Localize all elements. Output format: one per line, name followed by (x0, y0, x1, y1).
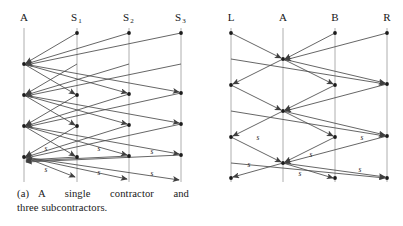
msg-B-to-A-r1 (285, 33, 335, 59)
axis-label-S1-subscript: 1 (78, 17, 82, 25)
node-B-r1 (333, 83, 337, 87)
msg-A-to-R-r1 (283, 59, 385, 83)
axis-label-A-b: A (279, 11, 287, 23)
node-S3-r2 (179, 122, 183, 126)
s-label-a-4: s (45, 165, 48, 174)
caption-a-tag: (a) (17, 188, 29, 199)
axis-label-S2: S (123, 11, 129, 23)
axis-labels-b: L A B R (228, 11, 392, 23)
axis-label-S1: S (71, 11, 77, 23)
node-A-r1 (22, 62, 26, 66)
axis-label-S2-subscript: 2 (130, 17, 134, 25)
node-R-r1 (385, 82, 389, 86)
node-B-r2 (333, 135, 337, 139)
s-label-b-2: s (361, 133, 364, 142)
s-label-b-4: s (248, 160, 251, 169)
axis-label-S3-subscript: 3 (182, 17, 186, 25)
axis-label-S3: S (175, 11, 181, 23)
s-label-b-1: s (257, 133, 260, 142)
node-R-r3 (385, 176, 389, 180)
s-label-a-6: s (151, 169, 154, 178)
caption-a-text1: A single contractor and (38, 188, 189, 199)
node-L-r2 (229, 135, 233, 139)
messages-group-a (24, 33, 181, 180)
node-S3-r0 (179, 31, 183, 35)
node-S1-r1 (75, 93, 79, 97)
msg-L-to-A-r1 (231, 33, 281, 58)
node-S1-r2 (75, 124, 79, 128)
node-S1-r3 (75, 155, 79, 159)
node-A-r2 (281, 109, 285, 113)
axis-label-A: A (20, 11, 28, 23)
msg-A-to-L-r1 (233, 59, 283, 84)
s-label-a-1: s (45, 144, 48, 153)
node-S2-r2 (127, 123, 131, 127)
node-A-r1 (281, 57, 285, 61)
diagram-a-canvas: A S 1 S 2 S 3 s s s s s s (0, 0, 201, 186)
diagram-b-canvas: L A B R s s s s s s (201, 0, 403, 186)
caption-a-line1: (a)A single contractor and (17, 187, 189, 201)
s-label-b-3: s (310, 150, 313, 159)
node-R-r2 (385, 134, 389, 138)
msg-R-to-A-r1 (285, 33, 387, 60)
msg-S2-to-A-r4 (26, 125, 129, 157)
node-S3-r1 (179, 91, 183, 95)
s-labels-a: s s s s s s (45, 144, 154, 178)
msg-S1-to-A-r1 (26, 33, 77, 63)
msg-R-to-A-r2 (285, 84, 387, 111)
axis-label-R: R (383, 11, 391, 23)
s-label-a-3: s (151, 147, 154, 156)
node-L-r3 (229, 176, 233, 180)
msg-L-to-A-r2 (231, 85, 281, 110)
node-S2-r0 (127, 31, 131, 35)
node-R-r0 (385, 31, 389, 35)
node-A-r2 (22, 93, 26, 97)
axis-label-B: B (331, 11, 338, 23)
msg-A-to-L-r4 (233, 163, 283, 177)
axis-labels-a: A S 1 S 2 S 3 (20, 11, 186, 25)
node-A-r4 (22, 155, 26, 159)
axis-label-L: L (228, 11, 235, 23)
figure-root: A S 1 S 2 S 3 s s s s s s (a)A single co… (0, 0, 403, 226)
node-S1-r0 (75, 31, 79, 35)
msg-S1-to-A-r4 (26, 126, 77, 156)
node-S3-r3 (179, 153, 183, 157)
msg-L-to-R-r1 (231, 59, 385, 84)
figure-panel-a: A S 1 S 2 S 3 s s s s s s (a)A single co… (0, 0, 201, 226)
node-A-r3 (281, 161, 285, 165)
s-label-b-5: s (299, 169, 302, 178)
msg-S1-to-A-r3 (26, 64, 77, 94)
node-B-r3 (333, 176, 337, 180)
node-A-r3 (22, 124, 26, 128)
node-S2-r1 (127, 92, 131, 96)
msg-R-to-A-r3 (285, 136, 387, 163)
node-B-r0 (333, 31, 337, 35)
msg-S2-to-A-r1 (26, 33, 129, 64)
msg-B-to-A-r2 (285, 85, 335, 110)
nodes-group-a (22, 31, 183, 159)
s-label-a-5: s (98, 168, 101, 177)
msg-L-to-R-r4 (231, 163, 385, 178)
node-S2-r3 (127, 154, 131, 158)
caption-a-text2: three subcontractors. (17, 201, 189, 215)
node-L-r0 (229, 31, 233, 35)
s-label-a-2: s (98, 144, 101, 153)
figure-panel-b: L A B R s s s s s s (b)Two joint subcont… (201, 0, 403, 226)
msg-A-to-R-r2 (283, 111, 385, 135)
s-label-b-6: s (359, 165, 362, 174)
caption-a: (a)A single contractor and three subcont… (17, 187, 189, 215)
node-L-r1 (229, 83, 233, 87)
msg-S1-to-A-r2 (26, 95, 77, 125)
